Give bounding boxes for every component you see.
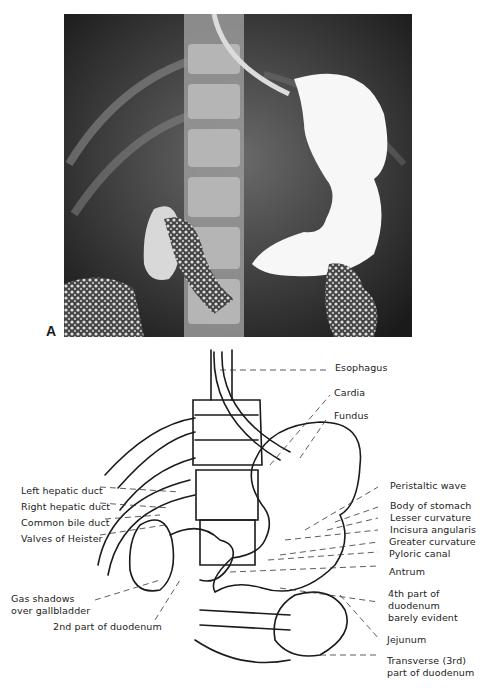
label-greater-curvature: Greater curvature [389, 536, 476, 548]
figure-panel-label: A [46, 323, 56, 339]
label-lesser-curvature: Lesser curvature [390, 512, 471, 524]
label-fundus: Fundus [334, 410, 369, 422]
label-valves-of-heister: Valves of Heister [21, 533, 103, 545]
label-body-of-stomach: Body of stomach [390, 500, 472, 512]
label-transverse-line1: Transverse (3rd) [387, 655, 466, 667]
label-jejunum: Jejunum [387, 634, 426, 646]
label-incisura-angularis: Incisura angularis [390, 524, 476, 536]
label-cardia: Cardia [334, 387, 365, 399]
label-gas-shadows-line1: Gas shadows [11, 593, 75, 605]
label-right-hepatic-duct: Right hepatic duct [21, 501, 110, 513]
label-pyloric-canal: Pyloric canal [389, 548, 450, 560]
label-antrum: Antrum [389, 566, 425, 578]
label-left-hepatic-duct: Left hepatic duct [21, 485, 103, 497]
label-fourth-part-line1: 4th part of [388, 588, 440, 600]
anatomical-line-diagram: Left hepatic duct Right hepatic duct Com… [0, 340, 495, 692]
label-common-bile-duct: Common bile duct [21, 517, 110, 529]
label-transverse-line2: part of duodenum [387, 667, 474, 679]
label-second-part-duodenum: 2nd part of duodenum [53, 621, 162, 633]
label-fourth-part-line2: duodenum [388, 600, 440, 612]
xray-radiograph [64, 14, 412, 337]
label-peristaltic-wave: Peristaltic wave [390, 480, 466, 492]
label-esophagus: Esophagus [335, 362, 388, 374]
label-gas-shadows-line2: over gallbladder [11, 605, 90, 617]
label-fourth-part-line3: barely evident [388, 612, 458, 624]
